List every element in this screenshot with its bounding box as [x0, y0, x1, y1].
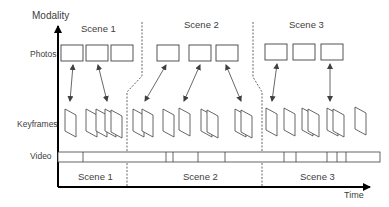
keyframe	[86, 109, 97, 137]
keyframe	[65, 109, 76, 137]
video-track	[58, 152, 380, 162]
photo	[265, 44, 287, 60]
link-arrow	[98, 65, 107, 101]
row-label-photos: Photos	[30, 49, 56, 59]
keyframes-row	[65, 107, 366, 138]
video-bar	[58, 152, 380, 162]
scene-label-bottom-3: Scene 3	[300, 171, 335, 182]
scene-title-1: Scene 1	[81, 23, 116, 34]
photo	[293, 44, 315, 60]
scene-title-3: Scene 3	[289, 19, 324, 30]
keyframe	[284, 108, 295, 136]
scene-label-bottom-1: Scene 1	[78, 171, 113, 182]
row-label-video: Video	[30, 151, 52, 161]
scene-title-2: Scene 2	[184, 19, 219, 30]
photos-row	[61, 44, 343, 61]
photo	[86, 45, 108, 61]
photo	[189, 45, 211, 61]
scene-modality-diagram: Modality Time Time Photos Keyframes Vide…	[0, 0, 389, 207]
link-arrow	[226, 65, 241, 101]
keyframe	[163, 109, 174, 137]
keyframe	[355, 107, 366, 135]
x-axis-label-visible: Time	[344, 190, 364, 200]
link-arrow	[70, 65, 73, 101]
photo	[216, 45, 238, 61]
photo-keyframe-links	[70, 64, 330, 101]
keyframe	[179, 108, 190, 136]
photo	[321, 44, 343, 60]
photo	[61, 45, 83, 61]
keyframe	[266, 108, 277, 136]
link-arrow	[272, 64, 277, 101]
link-arrow	[145, 65, 166, 101]
photo	[157, 45, 179, 61]
row-label-keyframes: Keyframes	[17, 119, 58, 129]
link-arrow	[184, 65, 200, 101]
photo	[111, 45, 133, 61]
y-axis-label: Modality	[32, 10, 69, 21]
scene-label-bottom-2: Scene 2	[183, 171, 218, 182]
